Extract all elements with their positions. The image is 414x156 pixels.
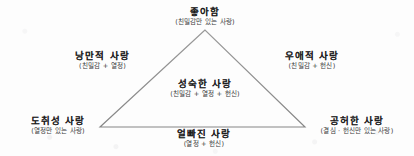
node-consummate-love-title: 성숙한 사랑	[140, 78, 270, 89]
node-consummate-love-subtitle: (친밀감 + 열정 + 헌신)	[140, 90, 270, 99]
node-fatuous-love-subtitle: (열정 + 헌신)	[142, 140, 266, 149]
node-companionate-love: 우애적 사랑 (친밀감 + 헌신)	[248, 50, 376, 71]
node-romantic-love: 낭만적 사랑 (친밀감 + 열정)	[40, 50, 165, 71]
node-liking: 좋아함 (친밀감만 있는 사랑)	[140, 6, 270, 27]
node-romantic-love-subtitle: (친밀감 + 열정)	[40, 62, 165, 71]
node-romantic-love-title: 낭만적 사랑	[40, 50, 165, 61]
node-companionate-love-title: 우애적 사랑	[248, 50, 376, 61]
node-companionate-love-subtitle: (친밀감 + 헌신)	[248, 62, 376, 71]
node-infatuation: 도취성 사랑 (열정만 있는 사랑)	[2, 115, 114, 136]
node-empty-love-subtitle: (결심 · 헌신만 있는 사랑)	[300, 127, 414, 136]
node-liking-title: 좋아함	[140, 6, 270, 17]
node-infatuation-title: 도취성 사랑	[2, 115, 114, 126]
node-consummate-love: 성숙한 사랑 (친밀감 + 열정 + 헌신)	[140, 78, 270, 99]
node-infatuation-subtitle: (열정만 있는 사랑)	[2, 127, 114, 136]
node-fatuous-love-title: 얼빠진 사랑	[142, 128, 266, 139]
node-empty-love-title: 공허한 사랑	[300, 115, 414, 126]
node-liking-subtitle: (친밀감만 있는 사랑)	[140, 18, 270, 27]
node-fatuous-love: 얼빠진 사랑 (열정 + 헌신)	[142, 128, 266, 149]
triangular-love-diagram: 좋아함 (친밀감만 있는 사랑) 낭만적 사랑 (친밀감 + 열정) 우애적 사…	[0, 0, 414, 156]
node-empty-love: 공허한 사랑 (결심 · 헌신만 있는 사랑)	[300, 115, 414, 136]
